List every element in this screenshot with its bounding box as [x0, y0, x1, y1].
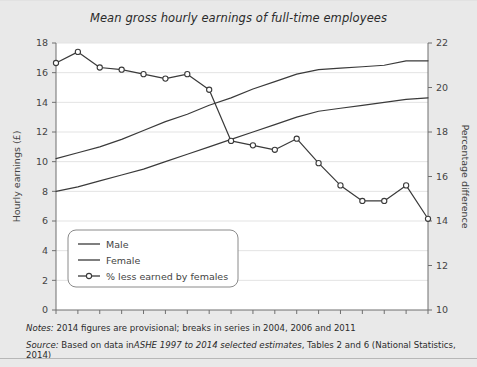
tick-label-bottom: 2007 [263, 317, 287, 318]
notes-text: 2014 figures are provisional; breaks in … [56, 323, 355, 333]
tick-label-right: 10 [436, 304, 448, 315]
tick-label-left: 0 [42, 304, 48, 315]
page-title: Mean gross hourly earnings of full-time … [0, 11, 477, 25]
legend-swatch-marker [86, 273, 91, 278]
tick-label-right: 16 [436, 171, 448, 182]
source-label: Source: [26, 340, 59, 350]
tick-label-bottom: 2011 [350, 317, 374, 318]
legend-label: % less earned by females [106, 271, 228, 282]
data-point [185, 72, 190, 77]
tick-label-bottom: 2013 [394, 317, 418, 318]
tick-label-left: 6 [42, 215, 48, 226]
tick-label-bottom: 2009 [306, 317, 330, 318]
data-point [382, 198, 387, 203]
data-point [272, 147, 277, 152]
source-reference: ASHE 1997 to 2014 selected estimates [134, 340, 302, 350]
data-point [316, 161, 321, 166]
axis-title-right: Percentage difference [460, 124, 471, 228]
tick-label-left: 10 [36, 156, 48, 167]
tick-label-left: 12 [36, 126, 48, 137]
legend-label: Male [106, 239, 129, 250]
data-point [207, 87, 212, 92]
legend-label: Female [106, 255, 141, 266]
tick-label-right: 18 [436, 126, 448, 137]
line-chart: 0246810121416181012141618202219971999200… [0, 38, 477, 318]
tick-label-bottom: 1997 [44, 317, 68, 318]
axis-title-left: Hourly earnings (£) [11, 131, 22, 223]
tick-label-right: 12 [436, 260, 448, 271]
data-point [338, 183, 343, 188]
tick-label-left: 14 [36, 97, 48, 108]
data-point [97, 65, 102, 70]
bottom-divider [0, 358, 477, 359]
tick-label-left: 4 [42, 245, 48, 256]
data-point [119, 67, 124, 72]
data-point [404, 183, 409, 188]
data-point [425, 216, 430, 221]
data-point [53, 60, 58, 65]
tick-label-bottom: 2005 [219, 317, 243, 318]
data-point [141, 72, 146, 77]
tick-label-left: 18 [36, 38, 48, 48]
notes-line: Notes: 2014 figures are provisional; bre… [26, 323, 466, 333]
data-point [163, 76, 168, 81]
data-point [360, 198, 365, 203]
tick-label-bottom: 2003 [175, 317, 199, 318]
notes-label: Notes: [26, 323, 54, 333]
tick-label-right: 14 [436, 215, 448, 226]
data-point [250, 143, 255, 148]
tick-label-right: 20 [436, 82, 448, 93]
tick-label-left: 8 [42, 186, 48, 197]
tick-label-bottom: 1999 [88, 317, 112, 318]
plot-area: 0246810121416181012141618202219971999200… [0, 38, 477, 318]
chart-figure: Mean gross hourly earnings of full-time … [0, 0, 477, 367]
data-point [75, 49, 80, 54]
source-line: Source: Based on data inASHE 1997 to 201… [26, 340, 466, 360]
data-point [228, 138, 233, 143]
tick-label-left: 16 [36, 67, 48, 78]
tick-label-right: 22 [436, 38, 448, 48]
tick-label-left: 2 [42, 275, 48, 286]
data-point [294, 136, 299, 141]
source-prefix: Based on data in [61, 340, 133, 350]
top-divider [0, 0, 477, 1]
tick-label-bottom: 2001 [131, 317, 155, 318]
